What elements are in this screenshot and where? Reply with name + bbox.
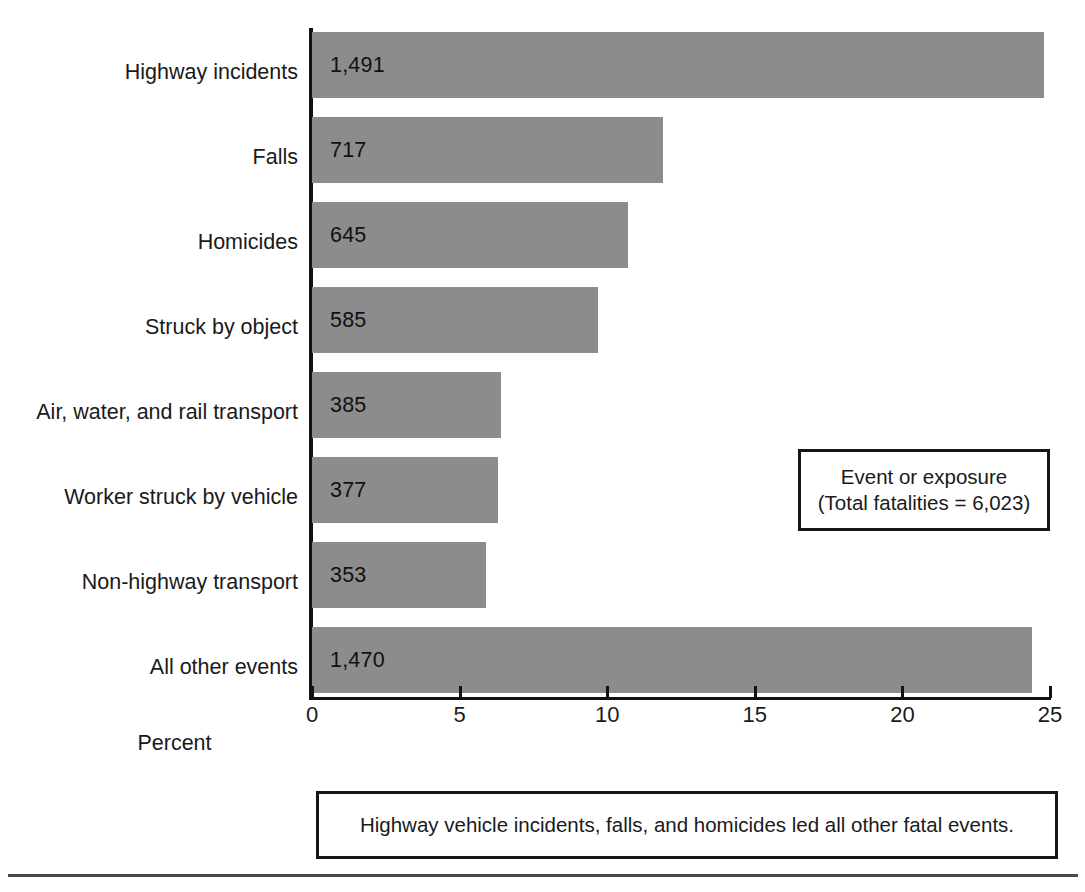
bar-value-label: 385 xyxy=(330,393,366,418)
category-label: Air, water, and rail transport xyxy=(0,400,298,425)
x-axis-tick-label: 0 xyxy=(306,702,318,728)
category-axis-labels: Highway incidents Falls Homicides Struck… xyxy=(0,28,298,696)
legend-box: Event or exposure (Total fatalities = 6,… xyxy=(798,449,1050,531)
caption-text: Highway vehicle incidents, falls, and ho… xyxy=(360,813,1014,837)
bar-value-label: 717 xyxy=(330,138,366,163)
bar-value-label: 353 xyxy=(330,563,366,588)
bar-value-label: 1,491 xyxy=(330,53,385,78)
caption-box: Highway vehicle incidents, falls, and ho… xyxy=(316,791,1058,859)
bar-value-label: 645 xyxy=(330,223,366,248)
legend-title: Event or exposure xyxy=(841,464,1007,490)
x-axis-tick-label: 20 xyxy=(890,702,914,728)
bar[interactable] xyxy=(312,627,1032,693)
category-label: Highway incidents xyxy=(0,60,298,85)
bar-value-label: 377 xyxy=(330,478,366,503)
category-label: Worker struck by vehicle xyxy=(0,485,298,510)
category-label: Non-highway transport xyxy=(0,570,298,595)
x-axis-tick xyxy=(1049,686,1052,698)
chart-page: Highway incidents Falls Homicides Struck… xyxy=(0,0,1085,892)
x-axis-title: Percent xyxy=(0,731,1085,756)
category-label: Struck by object xyxy=(0,315,298,340)
category-label: All other events xyxy=(0,655,298,680)
x-axis-tick-label: 15 xyxy=(743,702,767,728)
x-axis-tick-label: 5 xyxy=(453,702,465,728)
x-axis-tick xyxy=(606,686,609,698)
plot-area: 1,491 717 645 585 385 377 xyxy=(312,28,1050,696)
x-axis-line xyxy=(311,697,1051,700)
category-label: Homicides xyxy=(0,230,298,255)
legend-total: (Total fatalities = 6,023) xyxy=(818,490,1031,516)
footer-divider xyxy=(8,874,1078,877)
bar[interactable] xyxy=(312,32,1044,98)
bar-value-label: 585 xyxy=(330,308,366,333)
bar-value-label: 1,470 xyxy=(330,648,385,673)
x-axis-tick xyxy=(311,686,314,698)
x-axis-tick xyxy=(901,686,904,698)
x-axis-tick-label: 10 xyxy=(595,702,619,728)
x-axis-title-text: Percent xyxy=(137,731,211,755)
category-label: Falls xyxy=(0,145,298,170)
x-axis-tick-label: 25 xyxy=(1038,702,1062,728)
x-axis-tick xyxy=(459,686,462,698)
x-axis-tick xyxy=(754,686,757,698)
bar-series: 1,491 717 645 585 385 377 xyxy=(312,28,1050,696)
